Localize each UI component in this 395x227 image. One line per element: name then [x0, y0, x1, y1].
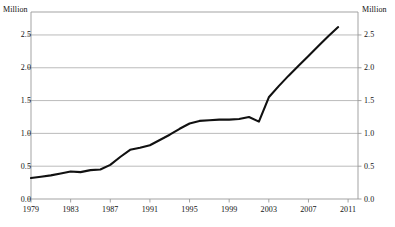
y-axis-label-left: 1.5: [21, 96, 31, 105]
y-axis-label-left: 0.5: [21, 162, 31, 171]
x-axis-label: 2011: [340, 205, 356, 214]
y-axis-label-left: 2.5: [21, 30, 31, 39]
y-axis-label-left: 0.0: [21, 195, 31, 204]
y-axis-label-right: 0.5: [364, 162, 374, 171]
y-axis-label-right: 1.0: [364, 129, 374, 138]
y-axis-label-right: 2.0: [364, 63, 374, 72]
x-axis-label: 2007: [300, 205, 316, 214]
y-axis-label-left: 1.0: [21, 129, 31, 138]
x-axis-tick-marks: [31, 199, 348, 203]
x-axis-label: 1987: [102, 205, 118, 214]
x-axis-label: 1991: [142, 205, 158, 214]
y-axis-label-right: 2.5: [364, 30, 374, 39]
y-axis-label-right: 0.0: [364, 195, 374, 204]
x-axis-label: 1995: [181, 205, 197, 214]
data-series-line: [31, 27, 338, 178]
x-axis-label: 1999: [221, 205, 237, 214]
x-axis-label: 1983: [62, 205, 78, 214]
y-axis-tick-marks: [28, 35, 362, 199]
plot-frame: [31, 12, 358, 199]
plot-area: [0, 0, 395, 227]
x-axis-label: 1979: [23, 205, 39, 214]
y-axis-label-right: 1.5: [364, 96, 374, 105]
x-axis-label: 2003: [261, 205, 277, 214]
y-axis-label-left: 2.0: [21, 63, 31, 72]
line-chart: Million Million 0.00.51.01.52.02.5 0.00.…: [0, 0, 395, 227]
